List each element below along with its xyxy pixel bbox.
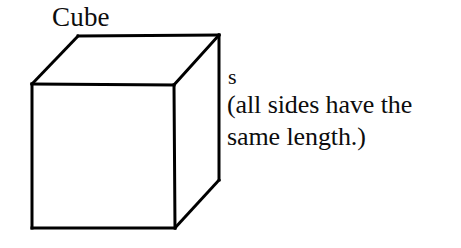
side-length-label: s [228, 66, 237, 88]
side-note-line-2: same length.) [227, 124, 366, 150]
side-note-line-1: (all sides have the [227, 92, 412, 118]
cube-figure: Cube s (all sides have the same length.) [0, 0, 461, 248]
front-top-edge [32, 84, 174, 85]
cube-front-face [32, 84, 175, 228]
cube-title-label: Cube [52, 4, 110, 31]
front-right-edge [174, 85, 175, 228]
top-back-edge [78, 35, 219, 36]
